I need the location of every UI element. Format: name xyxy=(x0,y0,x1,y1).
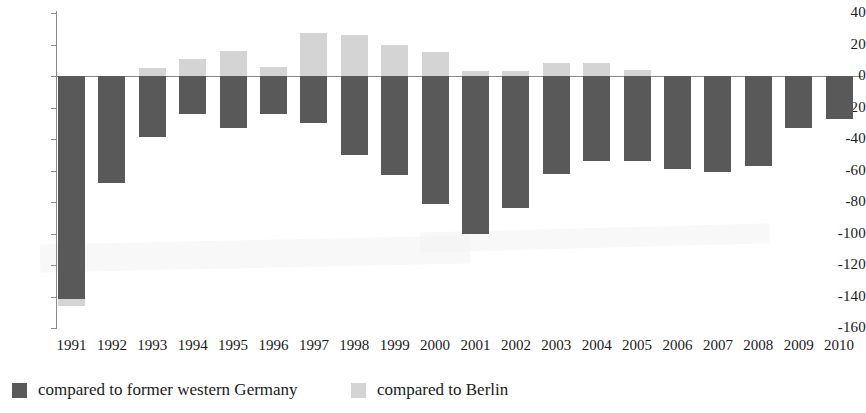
bar-group xyxy=(179,0,206,340)
x-axis-tick-label: 2002 xyxy=(494,337,538,354)
x-axis-tick-label: 1995 xyxy=(211,337,255,354)
bar-segment-western-germany xyxy=(624,76,651,161)
bar-chart: 40200-20-40-60-80-100-120-140-160 199119… xyxy=(0,0,866,413)
bar-segment-berlin xyxy=(502,71,529,76)
y-axis-tick xyxy=(51,328,57,329)
bar-segment-berlin xyxy=(220,51,247,76)
bar-segment-western-germany xyxy=(583,76,610,161)
bar-group xyxy=(58,0,85,340)
bar-group xyxy=(704,0,731,340)
y-axis-tick xyxy=(51,234,57,235)
light-gray-swatch xyxy=(351,383,366,398)
x-axis-tick-label: 2000 xyxy=(413,337,457,354)
legend-item-berlin: compared to Berlin xyxy=(351,379,508,401)
x-axis-tick-label: 1998 xyxy=(332,337,376,354)
bar-segment-western-germany xyxy=(139,76,166,137)
x-axis-tick-label: 2001 xyxy=(454,337,498,354)
bar-segment-western-germany xyxy=(58,76,85,306)
y-axis-tick xyxy=(51,13,57,14)
bar-segment-berlin xyxy=(300,33,327,76)
bar-segment-western-germany xyxy=(664,76,691,169)
x-axis-tick-label: 2010 xyxy=(817,337,861,354)
bar-segment-western-germany xyxy=(502,76,529,208)
x-axis-zero-line xyxy=(56,76,863,77)
chart-legend: compared to former western Germany compa… xyxy=(6,379,860,405)
x-axis-tick-label: 1991 xyxy=(50,337,94,354)
bar-group xyxy=(260,0,287,340)
y-axis-tick xyxy=(51,139,57,140)
bar-group xyxy=(422,0,449,340)
bar-group xyxy=(826,0,853,340)
bar-segment-western-germany xyxy=(422,76,449,204)
bar-group xyxy=(624,0,651,340)
bar-segment-western-germany xyxy=(704,76,731,172)
bar-segment-berlin xyxy=(179,59,206,76)
bar-group xyxy=(139,0,166,340)
x-axis-tick-label: 2009 xyxy=(777,337,821,354)
bar-segment-western-germany xyxy=(826,76,853,119)
y-axis-tick xyxy=(51,108,57,109)
bar-group xyxy=(785,0,812,340)
x-axis-tick-label: 1993 xyxy=(130,337,174,354)
x-axis-tick-label: 2003 xyxy=(534,337,578,354)
bar-segment-berlin xyxy=(341,35,368,76)
bar-group xyxy=(462,0,489,340)
bar-segment-berlin xyxy=(583,63,610,76)
y-axis-tick xyxy=(51,202,57,203)
y-axis-tick xyxy=(51,171,57,172)
y-axis-line xyxy=(56,11,57,328)
legend-item-western-germany: compared to former western Germany xyxy=(12,379,298,401)
legend-label: compared to Berlin xyxy=(377,380,508,400)
bar-segment-western-germany xyxy=(543,76,570,174)
bar-segment-western-germany xyxy=(300,76,327,123)
y-axis-tick xyxy=(51,76,57,77)
bar-segment-western-germany xyxy=(260,76,287,114)
bar-group xyxy=(381,0,408,340)
bar-segment-western-germany xyxy=(785,76,812,128)
bar-segment-western-germany xyxy=(462,76,489,234)
x-axis-tick-label: 2008 xyxy=(736,337,780,354)
x-axis-tick-label: 2006 xyxy=(656,337,700,354)
bar-segment-western-germany xyxy=(179,76,206,114)
bar-segment-western-germany xyxy=(341,76,368,155)
x-axis-tick-label: 2005 xyxy=(615,337,659,354)
bar-group xyxy=(583,0,610,340)
bar-group xyxy=(745,0,772,340)
bar-segment-berlin xyxy=(543,63,570,76)
bar-group xyxy=(98,0,125,340)
bar-segment-berlin xyxy=(422,52,449,76)
bar-segment-western-germany xyxy=(745,76,772,166)
x-axis-tick-label: 2007 xyxy=(696,337,740,354)
bar-group xyxy=(300,0,327,340)
bar-segment-berlin xyxy=(260,67,287,76)
legend-label: compared to former western Germany xyxy=(38,380,298,400)
x-axis-tick-label: 2004 xyxy=(575,337,619,354)
x-axis-tick-label: 1999 xyxy=(373,337,417,354)
y-axis-tick xyxy=(51,265,57,266)
x-axis-tick-label: 1997 xyxy=(292,337,336,354)
dark-gray-swatch xyxy=(12,383,27,398)
x-axis-tick-label: 1996 xyxy=(252,337,296,354)
bar-segment-berlin xyxy=(624,70,651,76)
bar-segment-western-germany xyxy=(220,76,247,128)
y-axis-tick xyxy=(51,45,57,46)
bar-group xyxy=(341,0,368,340)
bar-group xyxy=(543,0,570,340)
bar-segment-western-germany xyxy=(98,76,125,183)
bar-group xyxy=(220,0,247,340)
bar-segment-berlin xyxy=(58,299,85,306)
y-axis-tick xyxy=(51,297,57,298)
x-axis-tick-label: 1992 xyxy=(90,337,134,354)
bar-segment-berlin xyxy=(139,68,166,76)
bar-group xyxy=(502,0,529,340)
bar-segment-berlin xyxy=(462,71,489,76)
x-axis-tick-label: 1994 xyxy=(171,337,215,354)
bar-group xyxy=(664,0,691,340)
bar-segment-western-germany xyxy=(381,76,408,175)
bar-segment-berlin xyxy=(381,45,408,77)
